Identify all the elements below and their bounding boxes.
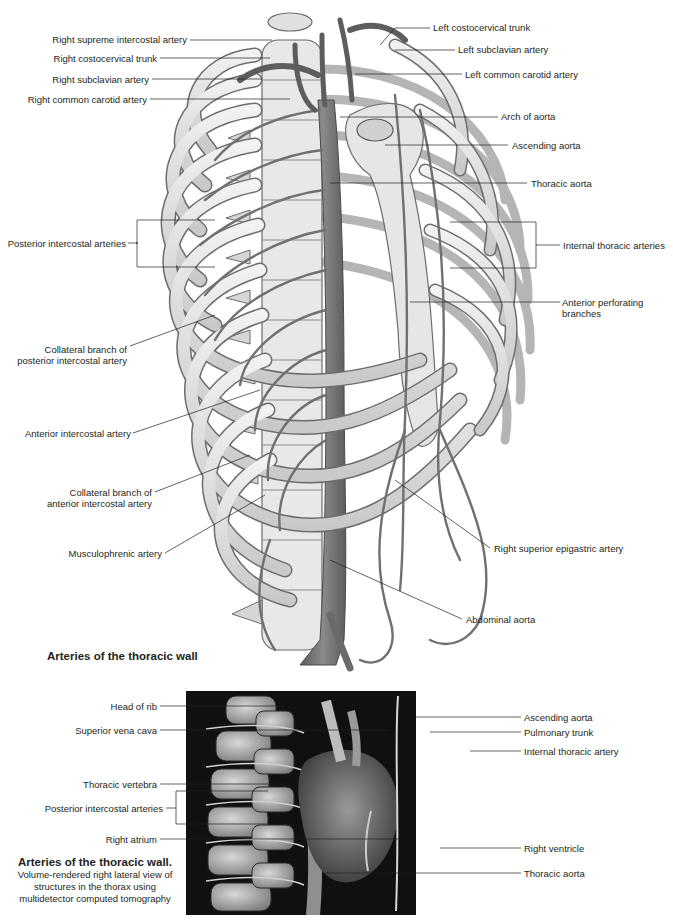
ct-caption-title: Arteries of the thoracic wall. xyxy=(10,855,180,869)
label-abdominal-aorta: Abdominal aorta xyxy=(466,614,535,625)
label-collateral-branch-anterior-intercostal-artery: Collateral branch of anterior intercosta… xyxy=(40,487,152,509)
ct-label-right-atrium: Right atrium xyxy=(0,834,157,845)
ct-caption-body: Volume-rendered right lateral view of st… xyxy=(18,869,173,904)
label-left-subclavian-artery: Left subclavian artery xyxy=(458,44,548,55)
label-right-supreme-intercostal-artery: Right supreme intercostal artery xyxy=(0,34,187,45)
label-anterior-intercostal-artery: Anterior intercostal artery xyxy=(0,428,131,439)
ascending-aorta-cut xyxy=(357,119,393,141)
ct-label-posterior-intercostal-arteries: Posterior intercostal arteries xyxy=(0,803,163,814)
label-right-costocervical-trunk: Right costocervical trunk xyxy=(0,53,157,64)
label-left-common-carotid-artery: Left common carotid artery xyxy=(465,69,578,80)
label-collateral-branch-posterior-intercostal-artery: Collateral branch of posterior intercost… xyxy=(10,344,127,366)
label-left-costocervical-trunk: Left costocervical trunk xyxy=(433,22,530,33)
label-right-subclavian-artery: Right subclavian artery xyxy=(0,74,149,85)
ct-label-internal-thoracic-artery: Internal thoracic artery xyxy=(524,746,619,757)
label-posterior-intercostal-arteries: Posterior intercostal arteries xyxy=(0,238,126,249)
ct-caption: Arteries of the thoracic wall. Volume-re… xyxy=(10,855,180,905)
label-thoracic-aorta: Thoracic aorta xyxy=(531,178,592,189)
ct-label-right-ventricle: Right ventricle xyxy=(524,843,584,854)
label-right-superior-epigastric-artery: Right superior epigastric artery xyxy=(494,543,623,554)
first-thoracic-vertebra xyxy=(268,13,312,31)
label-right-common-carotid-artery: Right common carotid artery xyxy=(0,94,147,105)
ct-label-head-of-rib: Head of rib xyxy=(0,701,157,712)
label-anterior-perforating-branches: Anterior perforating branches xyxy=(562,297,657,319)
ct-label-superior-vena-cava: Superior vena cava xyxy=(0,725,157,736)
ct-label-ascending-aorta: Ascending aorta xyxy=(524,712,593,723)
ct-label-pulmonary-trunk: Pulmonary trunk xyxy=(524,727,593,738)
label-musculophrenic-artery: Musculophrenic artery xyxy=(0,548,162,559)
ct-label-thoracic-vertebra: Thoracic vertebra xyxy=(0,779,157,790)
label-internal-thoracic-arteries: Internal thoracic arteries xyxy=(563,240,665,251)
ct-label-thoracic-aorta: Thoracic aorta xyxy=(524,868,585,879)
ct-volume-rendered-image xyxy=(186,691,416,915)
label-arch-of-aorta: Arch of aorta xyxy=(501,111,555,122)
figure-title: Arteries of the thoracic wall xyxy=(47,650,198,662)
label-ascending-aorta: Ascending aorta xyxy=(512,140,581,151)
ct-internal-thoracic-artery xyxy=(396,696,398,911)
